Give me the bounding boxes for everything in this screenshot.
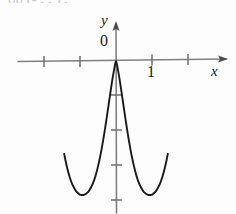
x-axis-group	[18, 54, 228, 67]
origin-label: 0	[100, 33, 108, 49]
plot-canvas	[0, 0, 236, 214]
y-axis-group	[111, 21, 122, 213]
x-axis-line	[18, 59, 226, 62]
x-tick-label-one: 1	[147, 64, 155, 80]
y-axis-line	[116, 26, 117, 213]
x-axis-label: x	[211, 64, 218, 79]
y-axis-label: y	[101, 13, 108, 28]
graph-figure: 00 (- , , ) , y x 0 1	[0, 0, 236, 214]
